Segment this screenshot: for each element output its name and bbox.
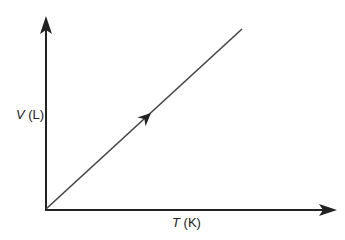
y-axis-unit: (L) bbox=[25, 107, 45, 122]
charles-law-diagram bbox=[0, 0, 345, 240]
y-axis-variable: V bbox=[16, 107, 25, 122]
y-axis-label: V (L) bbox=[16, 108, 44, 121]
x-axis-variable: T bbox=[172, 215, 180, 230]
x-axis-label: T (K) bbox=[172, 216, 201, 229]
x-axis-unit: (K) bbox=[180, 215, 201, 230]
